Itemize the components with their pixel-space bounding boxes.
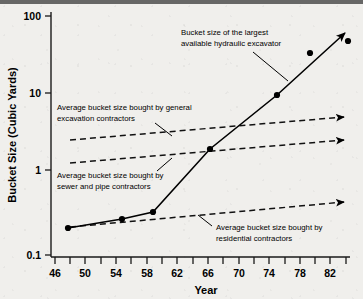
data-point <box>274 92 280 98</box>
x-tick-label-82: 82 <box>324 267 336 279</box>
data-point <box>207 146 213 152</box>
data-point <box>150 209 156 215</box>
y-tick-label-1: 1 <box>35 164 41 176</box>
x-tick-label-70: 70 <box>233 267 245 279</box>
data-point <box>345 38 351 44</box>
x-tick-label-74: 74 <box>263 267 275 279</box>
x-axis-ticks <box>55 257 346 264</box>
data-point <box>307 50 313 56</box>
annotation-largest-excavator: Bucket size of the largest available hyd… <box>181 28 288 81</box>
annotation-general-excavation-line1: Average bucket size bought by general <box>57 103 192 112</box>
x-axis-title: Year <box>194 284 218 296</box>
x-tick-label-46: 46 <box>49 267 61 279</box>
y-tick-label-10: 10 <box>29 87 41 99</box>
annotation-general-excavation-line2: excavation contractors <box>57 114 135 123</box>
chart-figure: 100 10 1 0.1 <box>0 0 363 299</box>
x-tick-label-58: 58 <box>141 267 153 279</box>
x-tick-label-78: 78 <box>294 267 306 279</box>
leader-line <box>155 123 172 136</box>
x-axis-tick-labels: 46 50 54 58 62 66 70 74 78 82 <box>49 267 336 279</box>
annotation-largest-excavator-line1: Bucket size of the largest <box>181 28 269 37</box>
annotation-residential-line1: Average bucket size bought by <box>216 223 323 232</box>
series-largest-hydraulic-excavator <box>65 33 351 231</box>
annotation-sewer-and-pipe-line1: Average bucket size bought by <box>57 171 164 180</box>
annotation-residential: Average bucket size bought by residentia… <box>198 215 323 243</box>
y-tick-label-100: 100 <box>23 10 41 22</box>
x-tick-label-54: 54 <box>110 267 122 279</box>
x-tick-label-50: 50 <box>79 267 91 279</box>
data-point <box>65 225 71 231</box>
annotation-largest-excavator-line2: available hydraulic excavator <box>181 39 282 48</box>
leader-line <box>198 215 212 226</box>
bucket-size-log-chart: 100 10 1 0.1 <box>0 0 363 299</box>
leader-line <box>253 52 288 81</box>
axis-lines <box>51 12 350 257</box>
annotation-residential-line2: residential contractors <box>216 234 292 243</box>
y-tick-label-0-1: 0.1 <box>26 249 41 261</box>
data-point <box>119 216 125 222</box>
y-axis-ticks <box>45 16 51 255</box>
x-tick-label-62: 62 <box>171 267 183 279</box>
leader-line <box>157 158 172 171</box>
y-axis-title: Bucket Size (Cubic Yards) <box>6 67 18 203</box>
y-axis-tick-labels: 100 10 1 0.1 <box>23 10 41 261</box>
x-tick-label-66: 66 <box>202 267 214 279</box>
annotation-sewer-and-pipe-line2: sewer and pipe contractors <box>57 182 151 191</box>
